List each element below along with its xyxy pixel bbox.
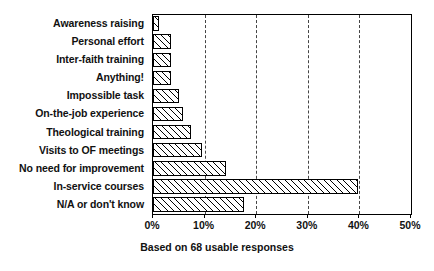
bar [153,71,171,85]
bar-row [153,51,411,69]
bar-chart: Awareness raisingPersonal effortInter-fa… [0,0,434,271]
chart-caption: Based on 68 usable responses [0,241,434,253]
x-axis-tick [152,214,153,218]
bar-row [153,33,411,51]
bar [153,34,171,48]
bar [153,53,171,67]
bar-row [153,142,411,160]
bar [153,125,191,139]
bar [153,161,226,175]
x-axis-tick-label: 10% [193,219,214,231]
category-label: Impossible task [67,86,144,104]
category-label: No need for improvement [19,159,144,177]
x-axis-tick [410,214,411,218]
category-label-column: Awareness raisingPersonal effortInter-fa… [0,14,148,213]
bar-row [153,124,411,142]
bar-row [153,105,411,123]
bar-row [153,178,411,196]
bar [153,89,179,103]
plot-area [152,14,412,215]
x-axis-tick [307,214,308,218]
bar [153,197,244,211]
bar-row [153,87,411,105]
category-label: Visits to OF meetings [39,141,144,159]
bar [153,179,358,193]
category-label: On-the-job experience [35,104,144,122]
category-label: Anything! [96,68,144,86]
x-axis-tick [255,214,256,218]
category-label: Awareness raising [53,14,144,32]
x-axis-tick-label: 50% [399,219,420,231]
bar [153,143,202,157]
x-axis-tick-label: 40% [348,219,369,231]
bar-row [153,15,411,33]
bar-row [153,160,411,178]
category-label: Personal effort [71,32,144,50]
bar-row [153,196,411,214]
x-axis-tick [358,214,359,218]
x-axis-tick-label: 20% [245,219,266,231]
bar [153,107,183,121]
bar [153,16,159,30]
category-label: N/A or don't know [57,195,144,213]
category-label: Theological training [46,123,144,141]
x-axis-tick [204,214,205,218]
x-axis-tick-label: 0% [144,219,159,231]
category-label: Inter-faith training [56,50,144,68]
x-axis-tick-label: 30% [296,219,317,231]
category-label: In-service courses [54,177,144,195]
bar-row [153,69,411,87]
